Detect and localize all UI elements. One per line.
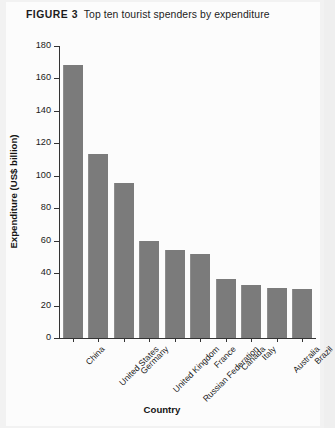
- y-tick-label: 100: [36, 170, 51, 180]
- y-tick-mark: [54, 143, 59, 144]
- bar[interactable]: [190, 254, 210, 338]
- bar-slot: [264, 46, 290, 338]
- bar[interactable]: [241, 285, 261, 338]
- x-tick-mark: [149, 338, 150, 342]
- y-tick-label: 180: [36, 40, 51, 50]
- x-tick-mark: [251, 338, 252, 342]
- y-tick-mark: [54, 306, 59, 307]
- y-tick-mark: [54, 241, 59, 242]
- x-axis-label: Country: [0, 404, 324, 415]
- bar-slot: [239, 46, 265, 338]
- plot-area: 020406080100120140160180: [60, 46, 315, 338]
- bar-slot: [213, 46, 239, 338]
- y-tick-mark: [54, 338, 59, 339]
- y-tick-mark: [54, 46, 59, 47]
- bar[interactable]: [114, 183, 134, 338]
- y-tick-label: 80: [41, 202, 51, 212]
- x-tick-label: China: [83, 344, 106, 367]
- bar[interactable]: [63, 65, 83, 338]
- x-tick-mark: [175, 338, 176, 342]
- x-tick-mark: [302, 338, 303, 342]
- y-tick-label: 0: [46, 332, 51, 342]
- bar[interactable]: [292, 289, 312, 338]
- x-tick-mark: [277, 338, 278, 342]
- bar-slot: [111, 46, 137, 338]
- bar[interactable]: [139, 241, 159, 338]
- bar-slot: [162, 46, 188, 338]
- y-tick-mark: [54, 111, 59, 112]
- y-tick-mark: [54, 208, 59, 209]
- bar-slot: [290, 46, 316, 338]
- bar[interactable]: [216, 279, 236, 338]
- y-tick-label: 40: [41, 267, 51, 277]
- bar-series: [60, 46, 315, 338]
- y-tick-mark: [54, 78, 59, 79]
- y-tick-label: 160: [36, 72, 51, 82]
- x-tick-mark: [226, 338, 227, 342]
- y-tick-label: 20: [41, 300, 51, 310]
- x-tick-mark: [73, 338, 74, 342]
- y-tick-label: 60: [41, 235, 51, 245]
- bar-slot: [137, 46, 163, 338]
- source-note: [40, 423, 310, 428]
- y-tick-label: 120: [36, 137, 51, 147]
- x-tick-mark: [200, 338, 201, 342]
- bar-slot: [188, 46, 214, 338]
- bar-slot: [86, 46, 112, 338]
- bar-slot: [60, 46, 86, 338]
- bar[interactable]: [267, 288, 287, 338]
- y-tick-mark: [54, 176, 59, 177]
- y-tick-label: 140: [36, 105, 51, 115]
- bar[interactable]: [165, 250, 185, 338]
- bar[interactable]: [88, 154, 108, 338]
- x-tick-mark: [98, 338, 99, 342]
- y-axis-label: Expenditure (US$ billion): [8, 112, 19, 272]
- x-tick-mark: [124, 338, 125, 342]
- y-tick-mark: [54, 273, 59, 274]
